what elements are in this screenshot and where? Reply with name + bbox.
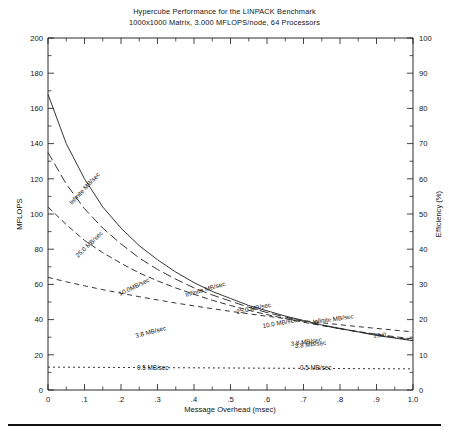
right-tick-label: 100 — [419, 34, 432, 43]
curve-infinite-mb-sec — [48, 94, 413, 340]
bottom-axis-tick-labels: 0.1.2.3.4.5.6.7.8.91.0 — [46, 395, 418, 404]
curve-label-group: Infinite MB/sec 25.0 MB/sec 10.0MB/sec 3… — [68, 171, 387, 371]
bottom-axis-ticks — [48, 384, 413, 390]
curve-label-38-left: 3.8 MB/sec — [134, 324, 166, 339]
footer-rule — [8, 424, 441, 426]
right-tick-label: 80 — [419, 104, 427, 113]
curve-label-infinite-left: Infinite MB/sec — [68, 171, 101, 206]
plot-frame — [48, 38, 413, 390]
bottom-tick-label: .2 — [118, 395, 124, 404]
bottom-tick-label: 1.0 — [408, 395, 419, 404]
curve-label-25-left: 25.0 MB/sec — [74, 229, 104, 258]
bottom-tick-label: .4 — [191, 395, 197, 404]
bottom-tick-label: .9 — [373, 395, 379, 404]
bottom-tick-label: .8 — [337, 395, 343, 404]
left-tick-label: 20 — [35, 351, 43, 360]
top-axis-ticks — [48, 38, 413, 44]
y-axis-left-title: MFLOPS — [15, 198, 24, 229]
axis-lines — [48, 38, 413, 390]
bottom-tick-label: .1 — [81, 395, 87, 404]
chart-figure: Hypercube Performance for the LINPACK Be… — [0, 0, 449, 435]
right-tick-label: 30 — [419, 280, 427, 289]
chart-title-block: Hypercube Performance for the LINPACK Be… — [0, 6, 449, 28]
left-tick-label: 160 — [30, 104, 43, 113]
chart-subtitle: 1000x1000 Matrix, 3.000 MFLOPS/node, 64 … — [0, 17, 449, 28]
curve-0-5-mb-sec — [48, 367, 413, 369]
right-tick-label: 60 — [419, 175, 427, 184]
right-tick-label: 40 — [419, 245, 427, 254]
bottom-tick-label: .7 — [300, 395, 306, 404]
left-tick-label: 60 — [35, 280, 43, 289]
x-axis-title: Message Overhead (msec) — [184, 405, 276, 414]
chart-plot: MFLOPS Efficiency (%) Message Overhead (… — [0, 0, 449, 435]
curve-label-05-right: 0.5 MB/sec — [300, 364, 332, 371]
y-axis-right-title: Efficiency (%) — [434, 190, 443, 237]
curve-label-25-right: 25.0 — [373, 330, 387, 339]
curve-label-10-mid: 10.0 MB/sec — [262, 316, 298, 329]
left-axis-ticks — [48, 38, 54, 390]
right-axis-tick-labels: 0102030405060708090100 — [419, 34, 432, 395]
left-tick-label: 100 — [30, 210, 43, 219]
curve-25-0-mb-sec — [48, 152, 413, 340]
right-tick-label: 90 — [419, 69, 427, 78]
bottom-tick-label: 0 — [46, 395, 50, 404]
curve-3-8-mb-sec — [48, 277, 413, 332]
right-tick-label: 0 — [419, 386, 423, 395]
left-tick-label: 140 — [30, 139, 43, 148]
left-tick-label: 180 — [30, 69, 43, 78]
left-axis-tick-labels: 020406080100120140160180200 — [30, 34, 43, 395]
right-tick-label: 50 — [419, 210, 427, 219]
left-tick-label: 200 — [30, 34, 43, 43]
right-tick-label: 20 — [419, 315, 427, 324]
bottom-tick-label: .5 — [227, 395, 233, 404]
curve-label-infinite-mid: Infinite MB/sec — [184, 280, 226, 298]
curve-10-0mb-sec — [48, 207, 413, 339]
right-tick-label: 70 — [419, 139, 427, 148]
left-tick-label: 80 — [35, 245, 43, 254]
curve-label-10-left: 10.0MB/sec — [117, 276, 150, 297]
right-axis-ticks — [407, 38, 413, 390]
data-curves — [48, 94, 413, 369]
chart-title: Hypercube Performance for the LINPACK Be… — [0, 6, 449, 17]
right-tick-label: 10 — [419, 351, 427, 360]
curve-label-05-left: 0.5 MB/sec — [137, 364, 169, 371]
curve-label-infinite-right: Infinite MB/sec — [312, 312, 354, 325]
left-tick-label: 0 — [39, 386, 43, 395]
bottom-tick-label: .6 — [264, 395, 270, 404]
left-tick-label: 120 — [30, 175, 43, 184]
bottom-tick-label: .3 — [154, 395, 160, 404]
left-tick-label: 40 — [35, 315, 43, 324]
